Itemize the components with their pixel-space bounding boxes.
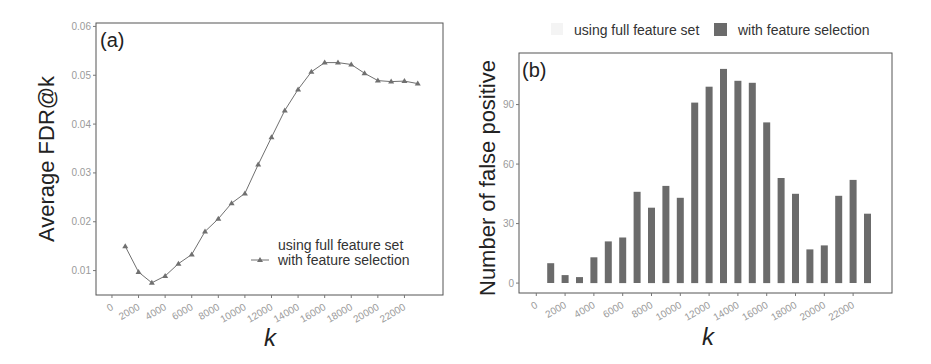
x-tick-label: 0 — [529, 299, 540, 312]
x-tick-label: 20000 — [798, 299, 828, 323]
x-tick-label: 4000 — [572, 299, 597, 320]
bar — [706, 87, 713, 283]
legend: using full feature set with feature sele… — [551, 22, 870, 38]
bar — [720, 69, 727, 283]
x-axis-ticks: 0200040006000800010000120001400016000180… — [529, 293, 857, 323]
y-tick-label: 90 — [503, 99, 515, 110]
legend-label-full-feature-set: using full feature set — [278, 237, 403, 253]
bar — [576, 277, 583, 283]
bar — [605, 241, 612, 283]
bar — [806, 249, 813, 283]
bar — [835, 196, 842, 283]
x-axis-ticks: 0200040006000800010000120001400016000180… — [105, 295, 408, 325]
bar — [850, 180, 857, 283]
x-tick-label: 10000 — [218, 301, 248, 325]
x-tick-label: 14000 — [711, 299, 741, 323]
bar — [734, 81, 741, 283]
bar — [562, 275, 569, 283]
x-tick-label: 10000 — [654, 299, 684, 323]
x-tick-label: 8000 — [630, 299, 655, 320]
x-tick-label: 6000 — [601, 299, 626, 320]
x-tick-label: 18000 — [769, 299, 799, 323]
x-tick-label: 16000 — [298, 301, 328, 325]
y-tick-label: 30 — [503, 218, 515, 229]
x-tick-label: 22000 — [378, 301, 408, 325]
panel-b-bar-chart: 0306090 02000400060008000100001200014000… — [475, 22, 892, 350]
legend-swatch-with-feature-selection — [714, 23, 727, 36]
bar — [749, 83, 756, 283]
bar — [634, 192, 641, 283]
y-tick-label: 0.06 — [72, 21, 92, 32]
x-tick-label: 14000 — [271, 301, 301, 325]
x-tick-label: 2000 — [117, 301, 142, 322]
x-tick-label: 16000 — [740, 299, 770, 323]
y-tick-label: 0.04 — [72, 119, 92, 130]
bar — [648, 208, 655, 283]
y-tick-label: 0.03 — [72, 167, 92, 178]
bar — [619, 238, 626, 284]
bar — [778, 178, 785, 283]
y-tick-label: 0.05 — [72, 70, 92, 81]
x-tick-label: 18000 — [325, 301, 355, 325]
y-axis-title: Number of false positive — [475, 60, 500, 296]
bar — [691, 103, 698, 284]
bar — [677, 198, 684, 283]
y-tick-label: 0 — [508, 278, 514, 289]
y-tick-label: 0.02 — [72, 216, 92, 227]
y-axis-ticks: 0.010.020.030.040.050.06 — [72, 21, 96, 276]
x-tick-label: 4000 — [143, 301, 168, 322]
x-tick-label: 12000 — [245, 301, 275, 325]
x-axis-title: k — [264, 324, 278, 351]
x-axis-title: k — [702, 323, 716, 350]
bar — [590, 257, 597, 283]
x-tick-label: 2000 — [543, 299, 568, 320]
legend-label-with-feature-selection: with feature selection — [737, 22, 870, 38]
y-axis-ticks: 0306090 — [503, 99, 519, 289]
x-tick-label: 22000 — [827, 299, 857, 323]
bar — [547, 263, 554, 283]
bar — [763, 122, 770, 283]
y-tick-label: 0.01 — [72, 265, 92, 276]
panel-label: (a) — [100, 29, 124, 51]
y-axis-title: Average FDR@k — [34, 75, 59, 242]
bar — [662, 186, 669, 283]
x-tick-label: 6000 — [170, 301, 195, 322]
x-tick-label: 8000 — [197, 301, 222, 322]
legend-label-with-feature-selection: with feature selection — [277, 252, 410, 268]
x-tick-label: 0 — [105, 301, 116, 314]
panel-a-line-chart: 0.010.020.030.040.050.06 020004000600080… — [34, 21, 443, 351]
legend-swatch-full-feature-set — [551, 23, 563, 35]
figure: 0.010.020.030.040.050.06 020004000600080… — [0, 0, 931, 364]
bar — [792, 194, 799, 283]
bar — [821, 245, 828, 283]
x-tick-label: 20000 — [351, 301, 381, 325]
y-tick-label: 60 — [503, 159, 515, 170]
bar — [864, 214, 871, 283]
panel-label: (b) — [522, 59, 546, 81]
legend-label-full-feature-set: using full feature set — [574, 22, 699, 38]
x-tick-label: 12000 — [683, 299, 713, 323]
